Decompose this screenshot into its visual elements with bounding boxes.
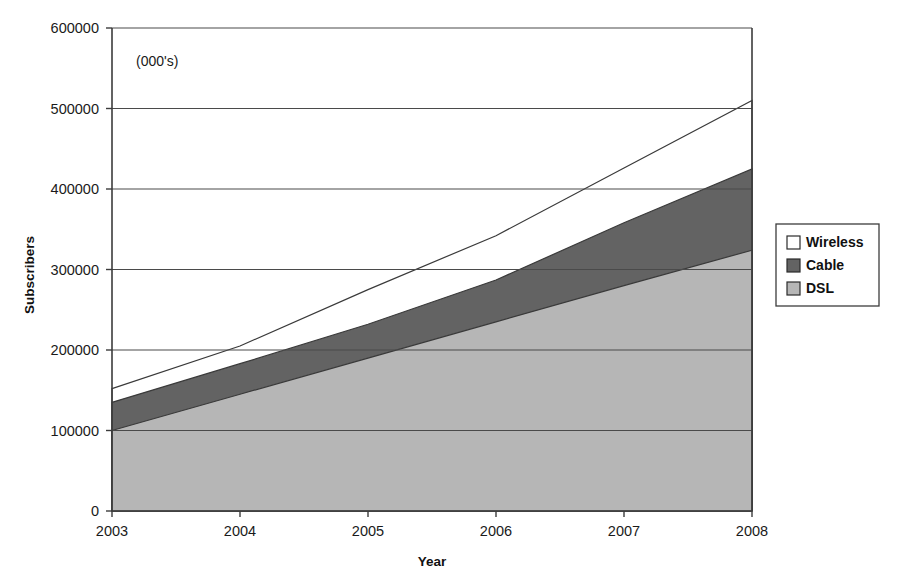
stacked-area-chart: 0100000200000300000400000500000600000 20… bbox=[0, 0, 901, 587]
units-note: (000's) bbox=[136, 53, 178, 69]
legend-swatch-cable bbox=[787, 259, 800, 272]
y-tick-label: 600000 bbox=[51, 20, 99, 36]
x-tick-label: 2005 bbox=[352, 523, 384, 539]
legend-label-cable: Cable bbox=[806, 257, 844, 273]
x-tick-label: 2008 bbox=[736, 523, 768, 539]
legend-swatch-dsl bbox=[787, 282, 800, 295]
x-tick-label: 2007 bbox=[608, 523, 640, 539]
legend-label-wireless: Wireless bbox=[806, 234, 864, 250]
legend-label-dsl: DSL bbox=[806, 280, 834, 296]
legend: Wireless Cable DSL bbox=[776, 224, 879, 306]
x-axis-title: Year bbox=[418, 554, 447, 569]
x-tick-label: 2006 bbox=[480, 523, 512, 539]
y-axis-title: Subscribers bbox=[22, 236, 37, 314]
legend-swatch-wireless bbox=[787, 236, 800, 249]
y-tick-label: 200000 bbox=[51, 342, 99, 358]
y-tick-label: 0 bbox=[91, 503, 99, 519]
x-tick-label: 2003 bbox=[96, 523, 128, 539]
y-tick-label: 100000 bbox=[51, 423, 99, 439]
y-tick-label: 500000 bbox=[51, 101, 99, 117]
y-tick-label: 300000 bbox=[51, 262, 99, 278]
x-tick-label: 2004 bbox=[224, 523, 256, 539]
chart-container: 0100000200000300000400000500000600000 20… bbox=[0, 0, 901, 587]
y-tick-label: 400000 bbox=[51, 181, 99, 197]
